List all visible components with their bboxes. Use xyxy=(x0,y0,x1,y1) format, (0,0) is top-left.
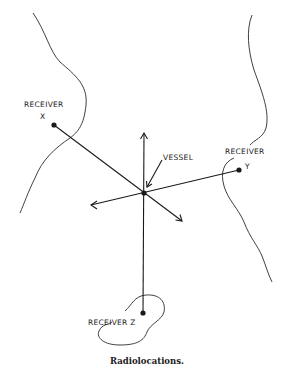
vessel-label: VESSEL xyxy=(163,153,194,162)
figure-caption: Radiolocations. xyxy=(110,356,184,366)
receiver-y-label: RECEIVER xyxy=(225,147,265,156)
vessel-dot xyxy=(141,190,146,195)
receiver-x-label: RECEIVER xyxy=(24,100,64,109)
bearing-line-x xyxy=(54,125,182,221)
arrow-left-icon xyxy=(91,201,97,209)
receiver-z-label: RECEIVER Z xyxy=(88,318,136,327)
receiver-x-letter: X xyxy=(40,112,45,121)
bearing-line-y xyxy=(91,170,239,205)
receiver-x-dot xyxy=(51,122,56,127)
coastline-right-upper xyxy=(248,15,267,145)
receiver-y-dot xyxy=(236,167,241,172)
receiver-y-letter: Y xyxy=(244,162,250,171)
bearing-line-z xyxy=(143,133,144,313)
receiver-z-dot xyxy=(140,310,145,315)
coastline-left xyxy=(20,13,86,213)
radiolocation-diagram: RECEIVER X RECEIVER Y RECEIVER Z VESSEL … xyxy=(0,0,295,373)
coastline-right-lower xyxy=(222,158,272,282)
vessel-pointer xyxy=(147,160,162,187)
